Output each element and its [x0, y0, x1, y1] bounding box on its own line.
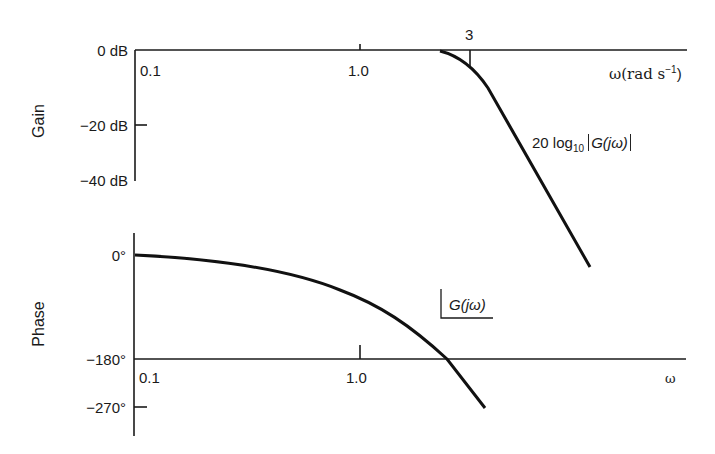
phase-curve [135, 255, 485, 408]
gain-curve [440, 51, 590, 267]
gain-ytick-40: −40 dB [50, 173, 128, 188]
phase-curve-label: G(jω) [449, 297, 486, 312]
phase-xtick-0.1: 0.1 [139, 370, 160, 385]
gain-xaxis-label: ω(rad s−1) [609, 65, 682, 82]
phase-ylabel: Phase [30, 301, 48, 346]
phase-ytick-180: −180° [60, 352, 126, 367]
gain-ylabel: Gain [30, 104, 48, 138]
corner-freq-label: 3 [465, 27, 473, 42]
gain-curve-label: 20 log10 G(jω) [532, 135, 631, 154]
phase-ytick-0: 0° [70, 248, 126, 263]
phase-ytick-270: −270° [60, 400, 126, 415]
gain-xtick-0.1: 0.1 [140, 63, 161, 78]
gain-ytick-0: 0 dB [60, 43, 128, 58]
gain-xtick-1.0: 1.0 [348, 63, 369, 78]
gain-ytick-20: −20 dB [50, 118, 128, 133]
phase-xaxis-label: ω [665, 372, 676, 385]
phase-xtick-1.0: 1.0 [346, 370, 367, 385]
